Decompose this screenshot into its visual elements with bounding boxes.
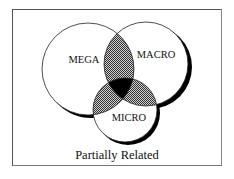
diagram-caption: Partially Related	[0, 148, 234, 163]
label-micro: MICRO	[112, 112, 147, 123]
label-mega: MEGA	[69, 54, 100, 65]
label-macro: MACRO	[137, 49, 176, 60]
